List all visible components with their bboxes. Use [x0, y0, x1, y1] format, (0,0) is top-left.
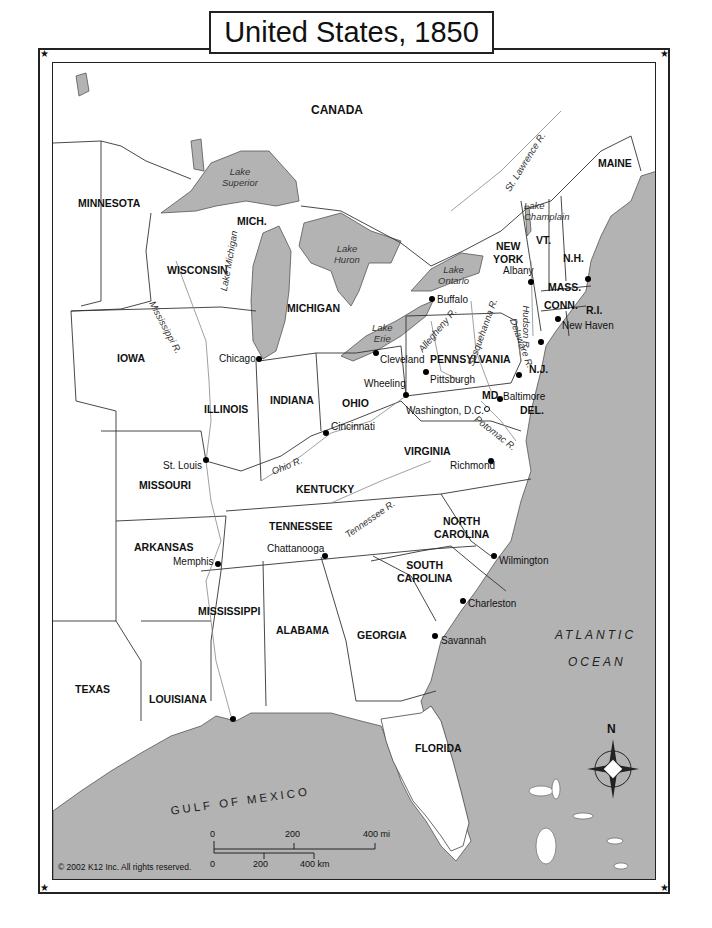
city-cincinnati: Cincinnati — [331, 421, 375, 432]
label-wisconsin: WISCONSIN — [167, 264, 228, 276]
label-minnesota: MINNESOTA — [78, 197, 140, 209]
city-dot-albany — [528, 279, 534, 285]
city-dot-wheeling — [403, 392, 409, 398]
city-wheeling: Wheeling — [364, 378, 406, 389]
label-louisiana: LOUISIANA — [149, 693, 207, 705]
label-florida: FLORIDA — [415, 742, 462, 754]
label-atlantic: ATLANTIC — [555, 628, 636, 642]
scale-mi-400: 400 mi — [363, 829, 390, 839]
label-iowa: IOWA — [117, 352, 145, 364]
label-illinois: ILLINOIS — [204, 403, 248, 415]
city-memphis: Memphis — [173, 556, 214, 567]
label-alabama: ALABAMA — [276, 624, 329, 636]
city-dot-new-haven — [555, 316, 561, 322]
label-rhode-island: R.I. — [586, 304, 602, 316]
city-dot-buffalo — [429, 296, 435, 302]
city-dot-new-york — [538, 339, 544, 345]
label-north-carolina: NORTH CAROLINA — [434, 515, 489, 541]
city-baltimore: Baltimore — [503, 391, 545, 402]
label-vermont: VT. — [536, 234, 551, 246]
city-dot-chicago — [256, 356, 262, 362]
city-chattanooga: Chattanooga — [267, 543, 324, 554]
map-title: United States, 1850 — [209, 11, 494, 54]
label-river-hudson: Hudson R. — [521, 306, 532, 351]
city-dot-charleston — [460, 598, 466, 604]
corner-star-icon: ★ — [658, 48, 670, 60]
label-new-york: NEW YORK — [493, 240, 523, 266]
label-arkansas: ARKANSAS — [134, 541, 194, 553]
label-lake-erie: Lake Erie — [372, 322, 393, 344]
label-lake-ontario: Lake Ontario — [438, 264, 469, 286]
label-tennessee: TENNESSEE — [269, 520, 333, 532]
city-washington: Washington, D.C. — [406, 405, 484, 416]
city-dot-wilmington — [491, 553, 497, 559]
label-texas: TEXAS — [75, 683, 110, 695]
scale-mi-0: 0 — [210, 829, 215, 839]
label-new-hampshire: N.H. — [563, 252, 584, 264]
scale-km-0: 0 — [210, 859, 215, 869]
city-st-louis: St. Louis — [163, 460, 202, 471]
label-connecticut: CONN. — [544, 299, 578, 311]
label-mississippi: MISSISSIPPI — [198, 605, 260, 617]
capital-icon-washington — [484, 406, 490, 412]
label-ohio: OHIO — [342, 397, 369, 409]
city-dot-boston — [585, 276, 591, 282]
corner-star-icon: ★ — [38, 48, 50, 60]
city-dot-savannah — [432, 633, 438, 639]
city-dot-cleveland — [373, 350, 379, 356]
city-chicago: Chicago — [219, 353, 256, 364]
scale-mi-200: 200 — [285, 829, 300, 839]
city-dot-memphis — [215, 561, 221, 567]
city-dot-new-orleans — [230, 716, 236, 722]
label-missouri: MISSOURI — [139, 479, 191, 491]
label-massachusetts: MASS. — [548, 281, 581, 293]
city-cleveland: Cleveland — [380, 354, 424, 365]
city-dot-st-louis — [203, 457, 209, 463]
label-maine: MAINE — [598, 157, 632, 169]
label-virginia: VIRGINIA — [404, 445, 451, 457]
label-mich-up: MICH. — [237, 215, 267, 227]
label-delaware: DEL. — [520, 404, 544, 416]
label-indiana: INDIANA — [270, 394, 314, 406]
label-lake-superior: Lake Superior — [222, 166, 258, 188]
label-michigan: MICHIGAN — [287, 302, 340, 314]
city-dot-philadelphia — [516, 372, 522, 378]
label-ocean: OCEAN — [568, 655, 626, 669]
city-buffalo: Buffalo — [437, 294, 468, 305]
city-charleston: Charleston — [468, 598, 516, 609]
label-canada: CANADA — [311, 103, 363, 117]
city-albany: Albany — [503, 265, 534, 276]
label-lake-champlain: Lake Champlain — [524, 200, 569, 222]
city-savannah: Savannah — [441, 635, 486, 646]
label-kentucky: KENTUCKY — [296, 483, 354, 495]
city-dot-pittsburgh — [423, 369, 429, 375]
map-graphic — [53, 63, 656, 880]
copyright-text: © 2002 K12 Inc. All rights reserved. — [58, 862, 191, 872]
scale-km-400: 400 km — [300, 859, 330, 869]
corner-star-icon: ★ — [38, 882, 50, 894]
city-dot-cincinnati — [323, 430, 329, 436]
label-south-carolina: SOUTH CAROLINA — [397, 559, 452, 585]
city-richmond: Richmond — [450, 460, 495, 471]
compass-north-label: N — [607, 722, 616, 736]
scale-km-200: 200 — [253, 859, 268, 869]
city-new-haven: New Haven — [562, 320, 614, 331]
label-lake-huron: Lake Huron — [334, 243, 360, 265]
map-area — [52, 62, 656, 880]
city-pittsburgh: Pittsburgh — [430, 374, 475, 385]
corner-star-icon: ★ — [658, 882, 670, 894]
city-wilmington: Wilmington — [499, 555, 548, 566]
label-georgia: GEORGIA — [357, 629, 407, 641]
